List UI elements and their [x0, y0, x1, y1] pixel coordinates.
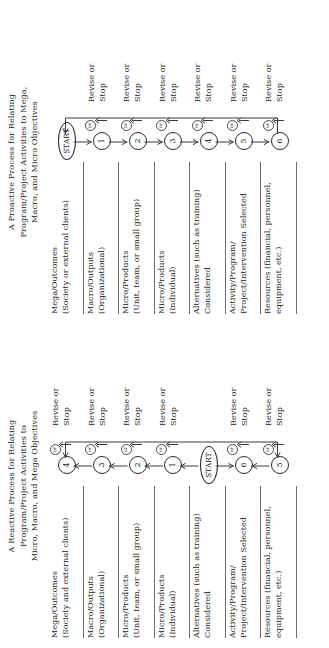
revise-line1: Revise or [50, 388, 60, 426]
row-label-line1: Micro/Products [120, 575, 130, 638]
title-line-1: A Proactive Process for Relating [6, 0, 18, 324]
revise-or-stop: Revise or Stop [50, 388, 73, 426]
up-arrow-icon [271, 116, 284, 125]
table-row: Mega/Outcomes (Society and external clie… [48, 334, 84, 638]
row-label: Mega/Outcomes (Society or external clien… [49, 164, 72, 314]
row-node-column: 5 or [226, 108, 262, 158]
revise-line1: Revise or [192, 64, 202, 102]
row-label-line1: Mega/Outcomes [49, 247, 59, 314]
revise-line2: Stop [239, 83, 249, 102]
revise-line2: Stop [61, 407, 71, 426]
up-arrow-icon [58, 440, 71, 449]
revise-line2: Stop [203, 83, 213, 102]
revise-or-stop: Revise or Stop [86, 64, 109, 102]
row-node-column: 3 or [155, 108, 191, 158]
process-node[interactable]: 3 [93, 456, 111, 474]
revise-line2: Stop [97, 83, 107, 102]
row-label-line2: (Unit, team, or small group) [131, 164, 142, 314]
row-node-column: 4 or [48, 432, 84, 482]
process-node[interactable]: 3 [164, 132, 182, 150]
row-node-column: START [190, 432, 226, 482]
revise-line1: Revise or [228, 64, 238, 102]
table-row: Macro/Outputs (Organizational) 1 or Revi… [84, 10, 120, 314]
figure-stage: A Reactive Process for Relating Program/… [0, 0, 329, 648]
row-label-line2: (Society or external clients) [60, 164, 71, 314]
start-node[interactable]: START [58, 122, 76, 160]
row-label: Micro/Products (Individual) [156, 164, 179, 314]
row-label: Alternatives (such as training) Consider… [191, 488, 214, 638]
row-label: Macro/Outputs (Organizational) [85, 164, 108, 314]
revise-or-stop: Revise or Stop [157, 64, 180, 102]
row-label-line2: Considered [202, 164, 213, 314]
panel-proactive: A Proactive Process for Relating Program… [0, 0, 329, 324]
process-node[interactable]: 4 [58, 456, 76, 474]
process-node[interactable]: 5 [271, 456, 289, 474]
revise-line2: Stop [97, 407, 107, 426]
row-node-column: 4 or [190, 108, 226, 158]
row-label: Micro/Products (Unit, team, or small gro… [120, 164, 143, 314]
row-label: Macro/Outputs (Organizational) [85, 488, 108, 638]
revise-line2: Stop [168, 407, 178, 426]
title-line-2: Program/Project Activities to Mega, [18, 0, 30, 324]
row-node-column: 1 or [84, 108, 120, 158]
revise-line2: Stop [132, 83, 142, 102]
row-label-line1: Micro/Products [156, 251, 166, 314]
row-label: Activity/Program/ Project/Intervention S… [227, 164, 250, 314]
process-node[interactable]: 2 [129, 456, 147, 474]
row-rule [296, 162, 297, 314]
revise-line1: Revise or [263, 388, 273, 426]
revise-or-stop: Revise or Stop [263, 64, 286, 102]
row-label: Activity/Program/ Project/Intervention S… [227, 488, 250, 638]
panel-reactive-title: A Reactive Process for Relating Program/… [6, 324, 41, 648]
row-label: Resources (financial, personnel, equipme… [262, 164, 285, 314]
process-node[interactable]: 1 [93, 132, 111, 150]
revise-line2: Stop [274, 407, 284, 426]
table-row: Macro/Outputs (Organizational) 3 or Revi… [84, 334, 120, 638]
up-arrow-icon [236, 116, 249, 125]
process-node[interactable]: 6 [271, 132, 289, 150]
row-label: Mega/Outcomes (Society and external clie… [49, 488, 72, 638]
up-arrow-icon [94, 116, 107, 125]
revise-line1: Revise or [121, 64, 131, 102]
row-label-line2: (Unit, team, or small group) [131, 488, 142, 638]
revise-line1: Revise or [121, 388, 131, 426]
process-node[interactable]: 1 [164, 456, 182, 474]
row-node-column: 2 or [119, 108, 155, 158]
row-label-line1: Macro/Outputs [85, 576, 95, 638]
row-label-line2: (Organizational) [96, 164, 107, 314]
revise-line1: Revise or [228, 388, 238, 426]
revise-line1: Revise or [263, 64, 273, 102]
row-label-line1: Alternatives (such as training) [191, 189, 201, 314]
panel-proactive-title: A Proactive Process for Relating Program… [6, 0, 41, 324]
revise-or-stop: Revise or Stop [192, 64, 215, 102]
revise-or-stop: Revise or Stop [228, 388, 251, 426]
row-label-line2: equipment, etc.) [273, 164, 284, 314]
table-row: Micro/Products (Unit, team, or small gro… [119, 334, 155, 638]
process-node[interactable]: 4 [200, 132, 218, 150]
revise-line1: Revise or [86, 388, 96, 426]
row-node-column: 6 or [226, 432, 262, 482]
process-node[interactable]: 6 [235, 456, 253, 474]
row-label-line2: equipment, etc.) [273, 488, 284, 638]
up-arrow-icon [129, 440, 142, 449]
table-row: Alternatives (such as training) Consider… [190, 10, 226, 314]
row-label-line1: Micro/Products [156, 575, 166, 638]
up-arrow-icon [200, 116, 213, 125]
revise-or-stop: Revise or Stop [263, 388, 286, 426]
process-node[interactable]: 5 [235, 132, 253, 150]
proactive-rows: Mega/Outcomes (Society or external clien… [48, 10, 297, 314]
row-label-line1: Alternatives (such as training) [191, 513, 201, 638]
table-row: Resources (financial, personnel, equipme… [261, 334, 297, 638]
up-arrow-icon [165, 116, 178, 125]
row-label-line2: Project/Intervention Selected [238, 164, 249, 314]
up-arrow-icon [271, 440, 284, 449]
up-arrow-icon [165, 440, 178, 449]
row-label-line2: Project/Intervention Selected [238, 488, 249, 638]
row-label-line2: (Society and external clients) [60, 488, 71, 638]
table-row: Micro/Products (Individual) 3 or Revise … [155, 10, 191, 314]
up-arrow-icon [236, 440, 249, 449]
start-node[interactable]: START [200, 446, 218, 484]
process-node[interactable]: 2 [129, 132, 147, 150]
row-label-line1: Micro/Products [120, 251, 130, 314]
row-node-column: 5 or [261, 432, 297, 482]
